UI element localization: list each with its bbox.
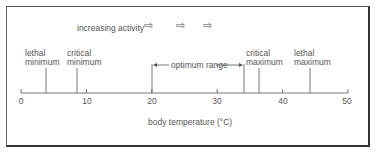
tick-label-40: 40 — [278, 96, 287, 106]
tick-label-0: 0 — [19, 96, 24, 106]
tick-label-30: 30 — [212, 96, 221, 106]
tick-label-50: 50 — [342, 96, 351, 106]
tick-label-20: 20 — [147, 96, 156, 106]
tick-label-10: 10 — [82, 96, 91, 106]
temperature-axis-graphic — [0, 0, 379, 160]
axis-title: body temperature (°C) — [148, 118, 232, 127]
